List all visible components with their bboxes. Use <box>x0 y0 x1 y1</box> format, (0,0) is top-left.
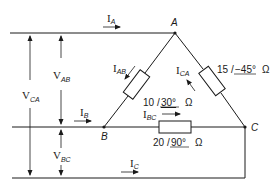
ibc-label: IBC <box>143 108 157 121</box>
ia-label: IA <box>107 12 116 25</box>
svg-text:20: 20 <box>153 137 165 148</box>
vbc-label: VBC <box>53 149 72 163</box>
ib-label: IB <box>80 106 89 119</box>
node-a-dot <box>173 31 176 34</box>
vab-label: VAB <box>53 69 71 83</box>
svg-text:30°: 30° <box>161 97 176 108</box>
impedance-bc-label: 20 / 90° Ω <box>153 137 203 148</box>
svg-text:−45°: −45° <box>235 64 256 75</box>
iab-label: IAB <box>113 62 126 75</box>
node-b-label: B <box>101 131 108 142</box>
node-c-dot <box>243 125 246 128</box>
node-c-label: C <box>251 122 259 133</box>
ica-arrow <box>187 80 195 91</box>
angle-symbol: / <box>167 137 170 148</box>
node-b-dot <box>102 125 105 128</box>
svg-text:Ω: Ω <box>185 97 193 108</box>
angle-symbol: / <box>231 64 234 75</box>
delta-circuit-diagram: A B C VCA VAB VBC IA IB IC <box>0 0 274 188</box>
svg-text:Ω: Ω <box>262 64 270 75</box>
impedance-ca-label: 15 / −45° Ω <box>217 64 270 75</box>
svg-text:Ω: Ω <box>195 137 203 148</box>
vca-label: VCA <box>22 89 40 103</box>
impedance-ab-resistor <box>123 70 149 100</box>
branch-ab-wire-top <box>145 33 175 73</box>
branch-ca-wire-bottom <box>221 93 245 127</box>
svg-text:10: 10 <box>143 97 155 108</box>
branch-ab-wire-bottom <box>104 96 128 127</box>
iab-arrow <box>125 66 135 79</box>
impedance-bc-resistor <box>159 121 191 133</box>
svg-text:15: 15 <box>217 64 229 75</box>
svg-text:90°: 90° <box>171 137 186 148</box>
ica-label: ICA <box>176 64 190 77</box>
angle-symbol: / <box>157 97 160 108</box>
ic-label: IC <box>130 157 140 170</box>
impedance-ab-label: 10 / 30° Ω <box>143 97 193 108</box>
node-a-label: A <box>170 17 178 28</box>
